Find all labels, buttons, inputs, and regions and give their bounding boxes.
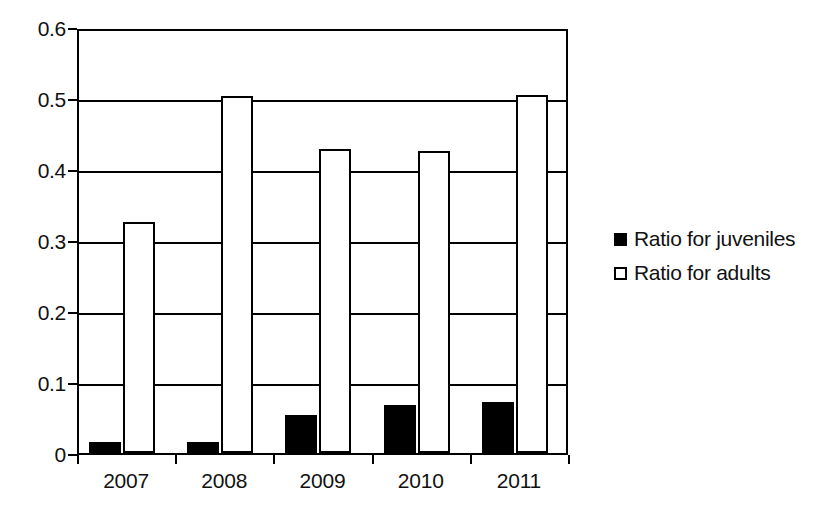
bar-adults (418, 151, 450, 453)
x-axis-tick-label: 2008 (201, 470, 247, 492)
y-axis-tick-mark (68, 241, 77, 243)
x-axis-tick-mark (175, 455, 177, 464)
bar-chart: 00.10.20.30.40.50.6 20072008200920102011… (0, 0, 824, 521)
x-axis-tick-mark (470, 455, 472, 464)
legend-item-adults[interactable]: Ratio for adults (614, 256, 824, 290)
bar-adults (516, 95, 548, 453)
bar-group (472, 31, 570, 453)
x-axis-tick-mark (372, 455, 374, 464)
bar-adults (221, 96, 253, 453)
bar-group (177, 31, 275, 453)
y-axis-tick-mark (68, 312, 77, 314)
x-axis-tick-label: 2009 (300, 470, 346, 492)
bar-juveniles (89, 442, 121, 453)
legend-item-juveniles[interactable]: Ratio for juveniles (614, 222, 824, 256)
bar-juveniles (482, 402, 514, 453)
y-axis-tick-label: 0.2 (8, 302, 66, 323)
y-axis-tick-mark (68, 454, 77, 456)
bar-juveniles (187, 442, 219, 453)
x-axis-tick-label: 2011 (497, 470, 541, 492)
bar-juveniles (285, 415, 317, 453)
x-axis-tick-mark (77, 455, 79, 464)
bar-group (79, 31, 177, 453)
y-axis-tick-mark (68, 99, 77, 101)
y-axis-tick-label: 0.3 (8, 231, 66, 252)
plot-area (77, 29, 568, 455)
bar-group (275, 31, 373, 453)
legend-swatch-filled-icon (614, 233, 627, 246)
bar-group (374, 31, 472, 453)
y-axis: 00.10.20.30.40.50.6 (0, 0, 66, 521)
y-axis-tick-label: 0.6 (8, 18, 66, 39)
legend-label-adults: Ratio for adults (634, 262, 770, 284)
y-axis-tick-label: 0.4 (8, 160, 66, 181)
x-axis-tick-label: 2010 (398, 470, 444, 492)
x-axis-tick-mark (568, 455, 570, 464)
x-axis-tick-mark (273, 455, 275, 464)
bar-juveniles (384, 405, 416, 453)
y-axis-tick-mark (68, 170, 77, 172)
y-axis-tick-mark (68, 383, 77, 385)
y-axis-tick-mark (68, 28, 77, 30)
bar-adults (319, 149, 351, 453)
y-axis-tick-label: 0.5 (8, 89, 66, 110)
x-axis-tick-label: 2007 (103, 470, 149, 492)
bar-adults (123, 222, 155, 453)
legend-swatch-hollow-icon (614, 267, 627, 280)
y-axis-tick-label: 0.1 (8, 373, 66, 394)
legend-label-juveniles: Ratio for juveniles (634, 228, 795, 250)
chart-legend: Ratio for juveniles Ratio for adults (614, 222, 824, 290)
y-axis-tick-label: 0 (8, 444, 66, 465)
